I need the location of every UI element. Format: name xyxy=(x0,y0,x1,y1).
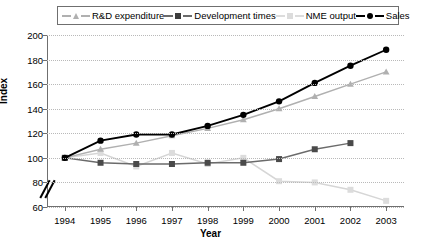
data-point-marker xyxy=(347,187,353,193)
gridline xyxy=(47,109,404,110)
data-point-marker xyxy=(240,160,246,166)
gridline xyxy=(47,133,404,134)
legend-line-rd-expenditure xyxy=(62,15,71,17)
legend-line2-sales xyxy=(375,15,384,17)
data-point-marker xyxy=(347,140,353,146)
x-axis-tick-label: 1998 xyxy=(197,215,218,226)
y-axis-tick xyxy=(43,35,47,36)
data-point-marker xyxy=(383,68,390,74)
x-axis-tick-label: 1999 xyxy=(233,215,254,226)
x-axis-tick-label: 2002 xyxy=(340,215,361,226)
y-axis-tick xyxy=(43,109,47,110)
data-point-marker xyxy=(205,160,211,166)
legend-line2-development-times xyxy=(183,15,192,17)
x-axis-tick-labels: 1994199519961997199819992000200120022003 xyxy=(47,207,404,227)
y-axis-tick xyxy=(43,60,47,61)
x-axis-title: Year xyxy=(0,228,421,239)
legend-label-sales: Sales xyxy=(386,11,410,21)
x-axis-tick-label: 1997 xyxy=(161,215,182,226)
x-axis-tick-label: 1994 xyxy=(54,215,75,226)
gridline xyxy=(47,60,404,61)
data-point-marker xyxy=(347,63,353,69)
legend-label-rd-expenditure: R&D expenditure xyxy=(92,11,164,21)
y-axis-tick-label: 160 xyxy=(17,79,43,90)
x-axis-tick-label: 2003 xyxy=(376,215,397,226)
y-axis-tick-label: 120 xyxy=(17,128,43,139)
square-marker-icon xyxy=(287,13,293,19)
data-point-marker xyxy=(383,198,389,204)
y-axis-tick xyxy=(43,133,47,134)
legend-item-nme-output: NME output xyxy=(276,11,356,21)
data-point-marker xyxy=(204,123,210,129)
data-point-marker xyxy=(383,47,389,53)
gridline xyxy=(47,84,404,85)
y-axis-tick xyxy=(43,158,47,159)
chart-legend: R&D expenditure Development times NME ou… xyxy=(57,6,399,25)
x-axis-tick-label: 2001 xyxy=(304,215,325,226)
gridline xyxy=(47,182,404,183)
legend-line2-rd-expenditure xyxy=(81,15,90,17)
circle-marker-icon xyxy=(367,13,373,19)
legend-label-nme-output: NME output xyxy=(306,11,356,21)
data-point-marker xyxy=(169,131,175,137)
legend-item-development-times: Development times xyxy=(164,11,275,21)
plot-area xyxy=(47,35,404,207)
data-point-marker xyxy=(133,131,139,137)
y-axis-tick-label: 100 xyxy=(17,152,43,163)
y-axis-tick-label: 140 xyxy=(17,103,43,114)
legend-label-development-times: Development times xyxy=(194,11,275,21)
x-axis-tick-label: 1995 xyxy=(90,215,111,226)
data-point-marker xyxy=(169,150,175,156)
y-axis-tick-label: 180 xyxy=(17,54,43,65)
data-point-marker xyxy=(98,160,104,166)
data-point-marker xyxy=(312,80,318,86)
x-axis-tick-label: 1996 xyxy=(126,215,147,226)
legend-item-rd-expenditure: R&D expenditure xyxy=(62,11,164,21)
data-point-marker xyxy=(97,137,103,143)
y-axis-tick-label: 200 xyxy=(17,30,43,41)
gridline xyxy=(47,158,404,159)
series-line-nme-output xyxy=(65,153,386,201)
legend-line-nme-output xyxy=(276,15,285,17)
data-point-marker xyxy=(240,112,246,118)
series-line-sales xyxy=(65,50,386,158)
legend-line-sales xyxy=(356,15,365,17)
data-point-marker xyxy=(133,161,139,167)
data-point-marker xyxy=(312,146,318,152)
y-axis-tick-label: 60 xyxy=(17,202,43,213)
x-axis-tick-label: 2000 xyxy=(268,215,289,226)
legend-item-sales: Sales xyxy=(356,11,410,21)
data-point-marker xyxy=(276,98,282,104)
y-axis-tick xyxy=(43,84,47,85)
y-axis-tick xyxy=(43,182,47,183)
gridline xyxy=(47,35,404,36)
y-axis-tick-label: 80 xyxy=(17,177,43,188)
y-axis-title: Index xyxy=(0,78,9,104)
series-lines xyxy=(47,35,404,207)
y-axis-tick-labels: 6080100120140160180200 xyxy=(17,35,43,207)
triangle-marker-icon xyxy=(73,13,79,19)
data-point-marker xyxy=(169,161,175,167)
chart-container: R&D expenditure Development times NME ou… xyxy=(0,0,421,247)
legend-line2-nme-output xyxy=(295,15,304,17)
square-marker-icon xyxy=(175,13,181,19)
legend-line-development-times xyxy=(164,15,173,17)
